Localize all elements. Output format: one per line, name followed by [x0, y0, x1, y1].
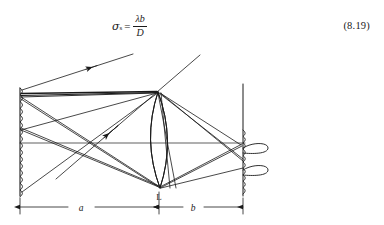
image-plane: [243, 84, 245, 196]
fraction: λb D: [133, 14, 146, 38]
fraction-numerator: λb: [133, 14, 146, 25]
diagram-svg: L a b: [0, 52, 384, 225]
incoming-ray-lower: [56, 55, 200, 179]
ray-object-mid-to-lens-bottom: [21, 128, 160, 188]
distance-a-label: a: [79, 203, 84, 213]
sigma-subscript: s: [120, 25, 123, 32]
ray-bundle-top: [21, 92, 157, 98]
equation-number: (8.19): [343, 20, 370, 31]
equation-sigma-s: σs = λb D: [112, 14, 147, 38]
ray-lens-top-to-image: [159, 93, 243, 161]
equation-row: σs = λb D (8.19): [0, 8, 384, 42]
distance-b-label: b: [191, 203, 196, 213]
diffraction-pattern-lobes: [243, 144, 268, 176]
lens-label: L: [156, 192, 162, 202]
dimension-lines: [20, 192, 243, 214]
incoming-ray-upper: [22, 54, 133, 90]
ray-object-lower-to-lens-top: [21, 93, 157, 130]
optics-diagram: L a b: [0, 52, 384, 225]
equals-sign: =: [124, 21, 130, 32]
biconvex-lens: [150, 92, 167, 188]
ray-lens-top-steep: [158, 93, 176, 188]
object-plane: [20, 88, 23, 197]
fraction-denominator: D: [135, 28, 146, 39]
sigma-symbol: σ: [112, 21, 120, 32]
